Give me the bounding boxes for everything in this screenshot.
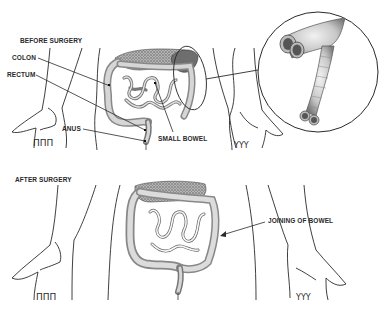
joining-arrow	[220, 222, 265, 237]
label-anus: ANUS	[62, 126, 81, 133]
svg-text:ΥΥΥ: ΥΥΥ	[233, 141, 249, 150]
bowel-surgery-diagram: ΠΠΠ ΥΥΥ	[0, 0, 388, 313]
magnified-inset	[258, 12, 378, 132]
label-small-bowel: SMALL BOWEL	[158, 136, 207, 143]
fingertips-after: ΠΠΠ ΥΥΥ	[36, 292, 311, 302]
inset-connector	[206, 70, 258, 79]
label-colon: COLON	[12, 55, 36, 62]
svg-text:ΠΠΠ: ΠΠΠ	[36, 292, 56, 302]
label-joining-of-bowel: JOINING OF BOWEL	[268, 218, 333, 225]
panel-title-before: BEFORE SURGERY	[20, 38, 82, 45]
svg-text:ΥΥΥ: ΥΥΥ	[295, 293, 311, 302]
svg-text:ΠΠΠ: ΠΠΠ	[33, 138, 53, 148]
illustration-canvas: ΠΠΠ ΥΥΥ	[0, 0, 388, 313]
before-surgery-figure: ΠΠΠ ΥΥΥ	[12, 44, 283, 150]
after-surgery-figure: ΠΠΠ ΥΥΥ	[12, 181, 346, 302]
label-rectum: RECTUM	[7, 72, 35, 79]
panel-title-after: AFTER SURGERY	[15, 177, 72, 184]
intestines-after	[130, 181, 215, 300]
